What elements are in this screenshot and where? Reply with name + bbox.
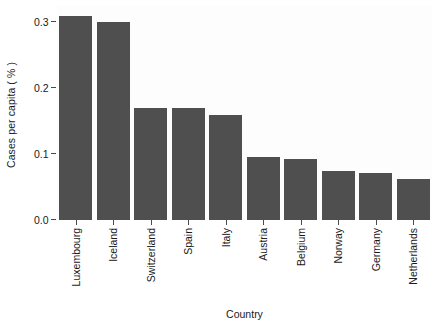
x-axis-tick-label: Italy bbox=[220, 228, 232, 247]
x-axis-tick-label: Spain bbox=[182, 228, 194, 255]
bar bbox=[247, 157, 280, 220]
y-axis-tick: 0.1 bbox=[34, 147, 56, 161]
x-axis-tick-mark bbox=[76, 220, 77, 225]
y-axis-title-text: Cases per capita ( % ) bbox=[5, 62, 17, 168]
y-axis-tick-label: 0.0 bbox=[34, 214, 49, 226]
x-axis-title: Country bbox=[57, 308, 432, 320]
x-axis-tick-label: Luxembourg bbox=[70, 228, 82, 286]
y-axis-title: Cases per capita ( % ) bbox=[0, 0, 22, 230]
bar bbox=[359, 173, 392, 220]
y-axis-tick: 0.2 bbox=[34, 81, 56, 95]
x-axis-tick-label: Norway bbox=[332, 228, 344, 264]
bar bbox=[172, 108, 205, 220]
bar bbox=[284, 159, 317, 220]
bar-chart: Cases per capita ( % ) 0.00.10.20.3 Luxe… bbox=[0, 0, 438, 334]
x-axis-tick-mark bbox=[188, 220, 189, 225]
x-axis-tick-mark bbox=[263, 220, 264, 225]
x-axis-tick-mark bbox=[376, 220, 377, 225]
bar bbox=[59, 16, 92, 220]
x-axis-tick-label: Netherlands bbox=[407, 228, 419, 285]
y-axis: 0.00.10.20.3 bbox=[22, 0, 56, 230]
y-axis-tick: 0.3 bbox=[34, 15, 56, 29]
x-axis-tick-mark bbox=[226, 220, 227, 225]
y-axis-tick: 0.0 bbox=[34, 213, 56, 227]
y-axis-tick-mark bbox=[51, 153, 56, 154]
bar bbox=[209, 115, 242, 220]
x-axis-tick-mark bbox=[113, 220, 114, 225]
plot-panel bbox=[57, 6, 432, 220]
x-axis-tick-mark bbox=[338, 220, 339, 225]
x-axis-tick-mark bbox=[151, 220, 152, 225]
bar bbox=[322, 171, 355, 220]
y-axis-tick-mark bbox=[51, 87, 56, 88]
bar bbox=[97, 22, 130, 220]
y-axis-tick-mark bbox=[51, 219, 56, 220]
x-axis-tick-label: Austria bbox=[257, 228, 269, 261]
bar bbox=[134, 108, 167, 220]
bar bbox=[397, 179, 430, 220]
y-axis-tick-label: 0.1 bbox=[34, 148, 49, 160]
x-axis: LuxembourgIcelandSwitzerlandSpainItalyAu… bbox=[57, 220, 432, 306]
y-axis-tick-label: 0.2 bbox=[34, 82, 49, 94]
y-axis-tick-mark bbox=[51, 21, 56, 22]
x-axis-tick-mark bbox=[413, 220, 414, 225]
y-axis-tick-label: 0.3 bbox=[34, 16, 49, 28]
x-axis-tick-label: Switzerland bbox=[145, 228, 157, 282]
x-axis-tick-mark bbox=[301, 220, 302, 225]
x-axis-tick-label: Germany bbox=[370, 228, 382, 271]
x-axis-tick-label: Iceland bbox=[107, 228, 119, 262]
x-axis-tick-label: Belgium bbox=[295, 228, 307, 266]
